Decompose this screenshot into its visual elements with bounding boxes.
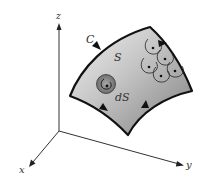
- curve-label: C: [86, 33, 95, 46]
- y-axis: [59, 131, 179, 164]
- loop-dot: [152, 47, 155, 50]
- loop-dot: [148, 66, 151, 69]
- element-disc: [97, 75, 116, 94]
- y-axis-arrow-icon: [176, 161, 184, 167]
- surface-element-ds: [97, 75, 116, 94]
- z-axis-label: z: [55, 11, 61, 21]
- surface: C S dS: [70, 27, 192, 135]
- loop-dot: [164, 58, 167, 61]
- stokes-diagram: z x y: [0, 0, 202, 194]
- x-axis: [33, 131, 59, 162]
- loop-dot: [160, 75, 163, 78]
- element-label: dS: [115, 91, 130, 104]
- loop-dot: [174, 70, 177, 73]
- diagram-canvas: z x y: [0, 0, 202, 194]
- element-dot: [106, 85, 109, 88]
- z-axis-arrow-icon: [57, 23, 62, 30]
- y-axis-label: y: [185, 159, 192, 170]
- surface-label: S: [114, 51, 122, 64]
- x-axis-label: x: [19, 164, 25, 175]
